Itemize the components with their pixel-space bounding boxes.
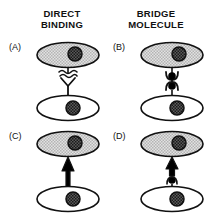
panel-c-lower-nucleus <box>66 192 80 206</box>
panel-a-receptor-y <box>61 78 75 86</box>
column-heading-direct-binding: DIRECT BINDING <box>26 8 98 30</box>
column-heading-bridge-molecule: BRIDGE MOLECULE <box>116 8 196 30</box>
panel-b-upper-nucleus <box>172 47 186 61</box>
panel-d-lower-nucleus <box>170 192 184 206</box>
panel-b-illustration <box>137 40 204 122</box>
panel-label-d: (D) <box>113 131 126 141</box>
panel-d-bound-arrow <box>166 157 178 176</box>
panel-a-no-bind-squiggle-2 <box>60 75 77 78</box>
panel-label-b: (B) <box>113 42 125 52</box>
panel-c-upper-nucleus <box>68 136 82 150</box>
panel-label-c: (C) <box>9 131 22 141</box>
panel-a-illustration <box>33 40 103 122</box>
figure-root: DIRECT BINDING BRIDGE MOLECULE (A) (B) (… <box>0 0 204 221</box>
panel-d-upper-nucleus <box>172 136 186 150</box>
panel-d-illustration <box>137 129 204 213</box>
panel-b-upper-bead <box>168 72 176 80</box>
panel-label-a: (A) <box>9 42 21 52</box>
panel-c-illustration <box>33 129 103 213</box>
panel-b-lower-nucleus <box>170 101 184 115</box>
panel-a-lower-nucleus <box>66 101 80 115</box>
panel-a-upper-nucleus <box>68 47 82 61</box>
panel-c-bound-arrow <box>62 157 74 187</box>
